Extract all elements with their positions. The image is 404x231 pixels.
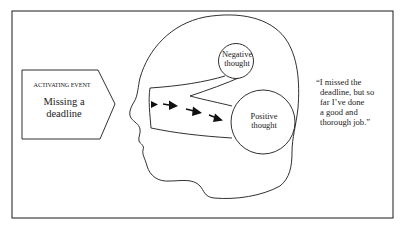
positive-thought-label: Positive thought [244,112,284,131]
positive-thought-label-line2: thought [244,121,284,130]
arrow-icon [209,114,223,123]
thought-channel-upper [150,76,225,88]
positive-thought-label-line1: Positive [244,112,284,121]
negative-thought-label-line1: Negative [219,50,255,59]
thought-channel-mid-upper [190,76,243,96]
arrow-icon [186,107,202,117]
arrow-icon [163,101,178,111]
quote-line: far I’ve done [316,97,396,107]
activating-event-text: Missing a deadline [28,96,100,120]
negative-thought-label-line2: thought [219,59,255,68]
arrow-icon [151,101,158,108]
activating-event-caption: ACTIVATING EVENT [28,82,96,89]
thought-channel-mid-lower [190,96,232,106]
negative-thought-label: Negative thought [219,50,255,69]
quote-line: a good and [316,107,396,117]
quote-line: thorough job.” [316,117,396,127]
quote-line: “I missed the [316,77,396,87]
positive-self-talk-quote: “I missed the deadline, but so far I’ve … [316,77,396,127]
quote-line: deadline, but so [316,87,396,97]
